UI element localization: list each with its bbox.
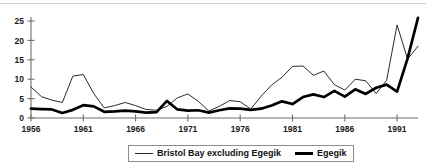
data-series-group	[31, 18, 418, 113]
y-tick-label: 25	[15, 16, 25, 26]
x-tick-label: 1971	[178, 124, 197, 134]
legend-label-egegik: Egegik	[317, 149, 347, 158]
legend-item-bristol-bay: Bristol Bay excluding Egegik	[135, 149, 281, 158]
x-tick-label: 1976	[231, 124, 250, 134]
series-line-egegik	[31, 18, 418, 113]
line-chart-svg: 0510152025 19561961196619711976198119861…	[0, 0, 426, 138]
legend-item-egegik: Egegik	[295, 149, 347, 158]
y-tick-label: 0	[19, 113, 24, 123]
y-tick-label: 10	[15, 74, 25, 84]
x-tick-label: 1961	[74, 124, 93, 134]
x-tick-label: 1991	[388, 124, 407, 134]
y-tick-label: 20	[15, 36, 25, 46]
y-tick-label: 5	[19, 94, 24, 104]
series-line-bristol-bay	[31, 25, 418, 111]
x-tick-label: 1966	[126, 124, 145, 134]
x-axis: 19561961196619711976198119861991	[22, 115, 418, 135]
plot-area: 0510152025 19561961196619711976198119861…	[0, 0, 426, 138]
y-axis: 0510152025	[15, 16, 35, 123]
x-tick-label: 1981	[283, 124, 302, 134]
x-tick-label: 1986	[335, 124, 354, 134]
legend-line-thin-icon	[135, 153, 153, 154]
legend-line-thick-icon	[295, 152, 313, 155]
y-tick-label: 15	[15, 55, 25, 65]
chart-container: 0510152025 19561961196619711976198119861…	[0, 0, 426, 167]
chart-legend: Bristol Bay excluding Egegik Egegik	[128, 145, 354, 162]
legend-label-bristol-bay: Bristol Bay excluding Egegik	[157, 149, 281, 158]
x-tick-label: 1956	[22, 124, 41, 134]
